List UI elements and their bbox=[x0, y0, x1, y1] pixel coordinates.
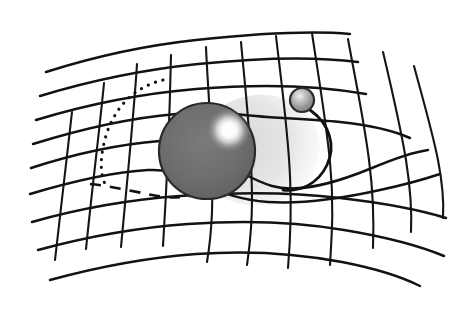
orbiting-body-sphere bbox=[290, 88, 314, 112]
spacetime-curvature-figure bbox=[0, 0, 455, 309]
grid-horizontal-line-0 bbox=[46, 32, 350, 72]
massive-body-group bbox=[159, 103, 255, 199]
figure-canvas bbox=[0, 0, 455, 309]
grid-horizontal-line-8 bbox=[50, 252, 420, 286]
grid-vertical-line-8 bbox=[348, 39, 374, 248]
grid-vertical-line-10 bbox=[414, 66, 443, 218]
orbiting-body-group bbox=[290, 88, 314, 112]
grid-horizontal-line-7 bbox=[38, 222, 444, 256]
